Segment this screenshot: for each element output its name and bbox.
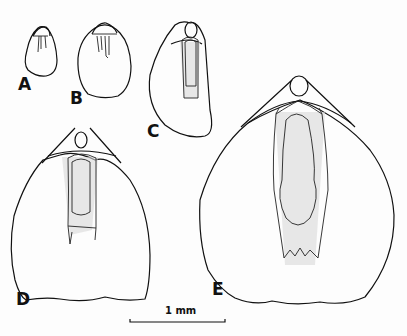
scale-bar-label: 1 mm <box>165 305 196 316</box>
specimen-e-drawing <box>200 76 394 304</box>
panel-label-e: E <box>212 279 224 299</box>
scale-bar <box>130 319 225 322</box>
panel-label-b: B <box>70 88 83 108</box>
drawing-canvas <box>0 0 407 336</box>
panel-label-d: D <box>16 289 30 309</box>
figure: A B C D E 1 mm <box>0 0 407 336</box>
specimen-a-drawing <box>25 27 57 76</box>
panel-label-c: C <box>147 121 159 141</box>
panel-label-a: A <box>18 74 31 94</box>
specimen-c-drawing <box>149 22 211 137</box>
specimen-d-drawing <box>11 128 150 301</box>
specimen-b-drawing <box>78 23 131 98</box>
